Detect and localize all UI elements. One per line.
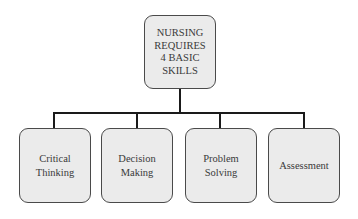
child-node-assessment: Assessment (268, 128, 340, 203)
horizontal-connector (53, 112, 305, 114)
child-node-problem-solving: Problem Solving (185, 128, 257, 203)
child-label: Problem Solving (203, 152, 239, 179)
child-connector-2 (136, 112, 138, 128)
root-stem-connector (179, 89, 181, 113)
child-label: Decision Making (118, 152, 155, 179)
child-node-critical-thinking: Critical Thinking (19, 128, 91, 203)
child-connector-4 (303, 112, 305, 128)
child-connector-3 (219, 112, 221, 128)
root-label: NURSING REQUIRES 4 BASIC SKILLS (154, 27, 205, 77)
child-label: Assessment (279, 159, 329, 173)
child-connector-1 (53, 112, 55, 128)
root-node: NURSING REQUIRES 4 BASIC SKILLS (144, 15, 216, 89)
child-node-decision-making: Decision Making (101, 128, 173, 203)
child-label: Critical Thinking (36, 152, 75, 179)
